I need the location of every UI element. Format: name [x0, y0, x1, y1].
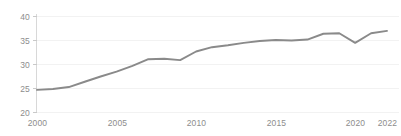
gridlines	[37, 17, 399, 113]
x-tick-label-2020: 2020	[346, 118, 366, 128]
y-tick-label-40: 40	[20, 12, 30, 22]
y-tick-label-35: 35	[20, 36, 30, 46]
y-tick-label-30: 30	[20, 60, 30, 70]
x-tick-label-2005: 2005	[108, 118, 128, 128]
line-chart: 2025303540 200020052010201520202022	[0, 0, 401, 136]
series-line-1	[37, 31, 387, 90]
y-axis-ticks: 2025303540	[20, 12, 37, 118]
x-tick-label-2010: 2010	[187, 118, 207, 128]
x-axis-ticks: 200020052010201520202022	[28, 118, 398, 128]
chart-canvas: 2025303540 200020052010201520202022	[0, 0, 401, 136]
x-tick-label-2000: 2000	[28, 118, 48, 128]
y-tick-label-20: 20	[20, 108, 30, 118]
y-tick-label-25: 25	[20, 84, 30, 94]
data-series	[37, 31, 387, 90]
x-tick-label-2022: 2022	[378, 118, 398, 128]
x-tick-label-2015: 2015	[267, 118, 287, 128]
